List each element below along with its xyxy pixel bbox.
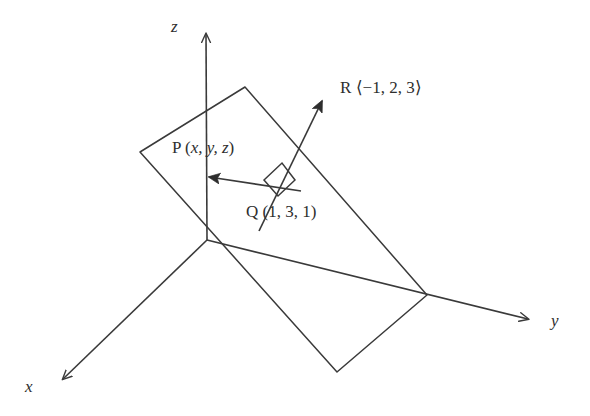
point-p-close: ) xyxy=(229,138,235,157)
x-axis-line xyxy=(63,240,207,379)
point-r-close: −1, 2, 3⟩ xyxy=(363,78,422,97)
y-axis-label: y xyxy=(551,312,559,329)
point-p-label: P (x, y, z) xyxy=(172,139,234,156)
point-r-label: R ⟨−1, 2, 3⟩ xyxy=(340,79,422,96)
vector-plane-diagram: x y z P (x, y, z) Q (1, 3, 1) R ⟨−1, 2, … xyxy=(0,0,590,416)
vector-qp-line xyxy=(209,177,301,191)
point-q-label: Q (1, 3, 1) xyxy=(246,203,316,220)
point-p-coords: x, y, z xyxy=(191,138,229,157)
x-axis-label: x xyxy=(25,378,33,395)
point-q-name: Q ( xyxy=(246,202,268,221)
point-q-close: 1, 3, 1) xyxy=(268,202,316,221)
plane-parallelogram xyxy=(140,87,427,372)
point-p-name: P ( xyxy=(172,138,191,157)
point-r-name: R ⟨ xyxy=(340,78,363,97)
z-axis-line xyxy=(206,34,207,240)
z-axis-label: z xyxy=(171,18,178,35)
